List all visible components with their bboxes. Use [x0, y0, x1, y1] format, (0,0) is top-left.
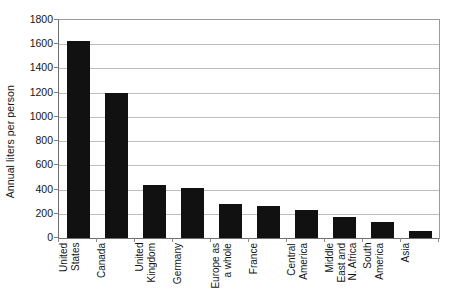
y-axis-tick-label: 400 [35, 183, 53, 194]
x-axis-category-label: Canada [96, 243, 134, 307]
bars-layer [59, 20, 439, 238]
bar [219, 204, 242, 238]
x-axis-tick-mark [286, 238, 287, 242]
x-axis-tick-mark [248, 238, 249, 242]
x-axis-category-label-text: Asia [400, 243, 412, 262]
bar [333, 217, 356, 238]
x-axis-category-label: Middle East and N. Africa [324, 243, 362, 307]
bar [67, 41, 90, 238]
y-axis-tick-label: 1600 [30, 38, 53, 49]
x-axis-category-label-text: France [248, 243, 260, 274]
x-axis-category-label-text: United Kingdom [134, 243, 157, 282]
y-axis-tick-label: 1000 [30, 110, 53, 121]
bar [181, 188, 204, 238]
y-axis-tick-label: 1200 [30, 86, 53, 97]
y-axis-tick-label: 200 [35, 207, 53, 218]
x-axis-tick-mark [400, 238, 401, 242]
x-axis-tick-mark [210, 238, 211, 242]
x-axis-tick-mark [324, 238, 325, 242]
x-axis-tick-mark [438, 238, 439, 242]
x-axis-tick-mark [134, 238, 135, 242]
x-axis-tick-mark [172, 238, 173, 242]
bar [143, 185, 166, 238]
x-axis-category-label-text: Middle East and N. Africa [324, 243, 359, 282]
x-axis-category-label: France [248, 243, 286, 307]
bar [105, 93, 128, 238]
bar [371, 222, 394, 238]
x-axis-category-label: South America [362, 243, 400, 307]
x-axis-tick-mark [58, 238, 59, 242]
x-axis-category-label-text: Canada [96, 243, 108, 278]
x-axis-category-label: Central America [286, 243, 324, 307]
y-axis-tick-label: 1800 [30, 14, 53, 25]
x-axis-tick-mark [362, 238, 363, 242]
bar [295, 210, 318, 238]
x-axis-category-label: Germany [172, 243, 210, 307]
x-axis-category-label-text: United States [58, 243, 81, 272]
x-axis-category-label-text: Germany [172, 243, 184, 284]
x-axis-tick-mark [96, 238, 97, 242]
x-axis-category-label-text: South America [362, 243, 385, 280]
bar [409, 231, 432, 238]
bar-chart: Annual liters per person 020040060080010… [0, 0, 456, 308]
y-axis-title-text: Annual liters per person [4, 85, 16, 198]
y-axis-tick-label: 800 [35, 135, 53, 146]
y-axis-tick-label: 1400 [30, 62, 53, 73]
x-axis-category-label-text: Europe as a whole [210, 243, 233, 289]
y-axis-tick-label: 600 [35, 159, 53, 170]
y-axis-tick-labels: 020040060080010001200140016001800 [18, 0, 58, 308]
y-axis-tick-label: 0 [47, 232, 53, 243]
x-axis-category-label: United States [58, 243, 96, 307]
y-axis-title: Annual liters per person [2, 62, 18, 222]
x-axis-category-label: United Kingdom [134, 243, 172, 307]
x-axis-category-label: Europe as a whole [210, 243, 248, 307]
x-axis-category-label: Asia [400, 243, 438, 307]
x-axis-category-label-text: Central America [286, 243, 309, 280]
bar [257, 206, 280, 238]
plot-area [58, 19, 440, 239]
x-axis-category-labels: United StatesCanadaUnited KingdomGermany… [58, 243, 439, 308]
